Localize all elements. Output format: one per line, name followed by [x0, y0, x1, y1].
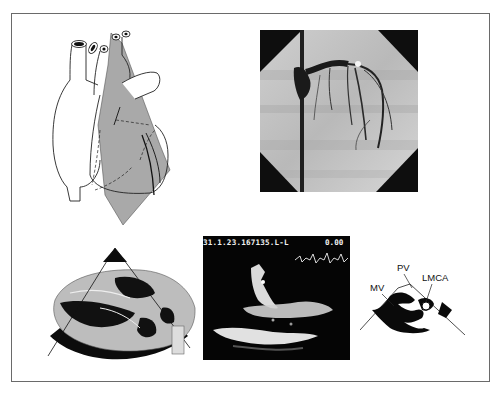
echocardiogram: 31.1.23.167135.L-L 0.00: [203, 236, 350, 360]
heart-diagram: [50, 25, 200, 230]
specimen-image-icon: [40, 248, 200, 366]
angiogram-image-icon: [260, 30, 418, 192]
label-pv: PV: [397, 262, 410, 273]
heart-drawing-icon: [50, 25, 200, 230]
echo-image-icon: [203, 236, 350, 360]
coronary-angiogram: [260, 30, 418, 192]
label-lmca: LMCA: [422, 272, 448, 283]
schematic-diagram: PV LMCA MV: [360, 240, 475, 335]
label-mv: MV: [370, 282, 384, 293]
heart-specimen: [40, 248, 200, 366]
